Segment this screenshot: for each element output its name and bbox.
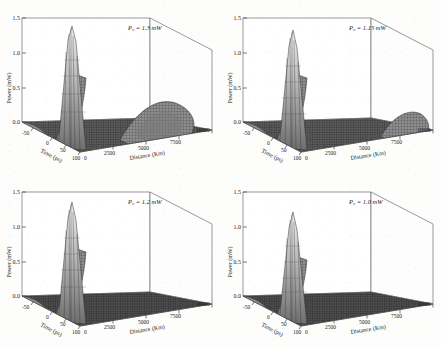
svg-text:0.0: 0.0: [234, 119, 242, 125]
panel-bottom-left: 1.5 1.0 0.5 0.0 Power (mW): [0, 174, 220, 347]
svg-text:100: 100: [72, 155, 81, 161]
svg-text:0.5: 0.5: [13, 259, 21, 265]
svg-text:1.0: 1.0: [234, 50, 242, 56]
panel-top-left: 1.5 1.0 0.5 0.0 Power (mW): [0, 0, 220, 173]
svg-text:0: 0: [267, 140, 270, 146]
y-axis-label: Distance (Km): [129, 324, 165, 336]
svg-text:7500: 7500: [170, 139, 181, 145]
z-axis-label: Power (mW): [6, 72, 13, 103]
svg-text:100: 100: [293, 155, 302, 161]
svg-text:10000: 10000: [417, 127, 431, 133]
svg-text:0: 0: [84, 329, 87, 335]
svg-text:2500: 2500: [325, 324, 336, 330]
y-axis-label: Distance (Km): [129, 150, 165, 162]
svg-text:0.5: 0.5: [13, 85, 21, 91]
svg-text:0: 0: [84, 155, 87, 161]
svg-text:2500: 2500: [104, 150, 115, 156]
z-axis-label: Power (mW): [6, 246, 13, 277]
panel-annotation: P₀ = 1.0 mW: [348, 198, 383, 205]
svg-text:1.5: 1.5: [13, 189, 21, 195]
svg-text:10000: 10000: [196, 301, 210, 307]
svg-text:10000: 10000: [196, 127, 210, 133]
svg-text:7500: 7500: [391, 139, 402, 145]
svg-text:2500: 2500: [104, 324, 115, 330]
panel-annotation: P₀ = 1.2 mW: [127, 198, 162, 205]
svg-text:-50: -50: [22, 130, 30, 136]
svg-text:50: 50: [60, 147, 66, 153]
panel-bottom-right-plot: 1.5 1.0 0.5 0.0 Power (mW): [221, 174, 441, 347]
svg-text:-50: -50: [243, 304, 251, 310]
panel-top-right-plot: 1.5 1.0 0.5 0.0 Power (mW): [221, 0, 441, 173]
svg-text:0.0: 0.0: [13, 293, 21, 299]
svg-text:1.0: 1.0: [13, 50, 21, 56]
panel-bottom-left-plot: 1.5 1.0 0.5 0.0 Power (mW): [0, 174, 220, 347]
y-axis-label: Distance (Km): [350, 324, 386, 336]
svg-text:10000: 10000: [417, 301, 431, 307]
z-tick-labels: 1.5 1.0 0.5 0.0: [13, 15, 21, 125]
svg-text:-50: -50: [22, 304, 30, 310]
figure-four-panel-surface-plots: 1.5 1.0 0.5 0.0 Power (mW): [0, 0, 441, 347]
svg-text:0.0: 0.0: [13, 119, 21, 125]
svg-text:0.0: 0.0: [234, 293, 242, 299]
svg-text:0: 0: [305, 329, 308, 335]
svg-text:1.5: 1.5: [13, 15, 21, 21]
svg-text:7500: 7500: [170, 313, 181, 319]
svg-text:1.0: 1.0: [234, 224, 242, 230]
svg-text:5000: 5000: [359, 319, 370, 325]
svg-text:0: 0: [46, 140, 49, 146]
z-axis-label: Power (mW): [227, 72, 234, 103]
svg-text:50: 50: [281, 147, 287, 153]
svg-text:50: 50: [281, 321, 287, 327]
svg-text:7500: 7500: [391, 313, 402, 319]
svg-text:50: 50: [60, 321, 66, 327]
z-axis-label: Power (mW): [227, 246, 234, 277]
panel-annotation: P₀ = 1.3 mW: [127, 24, 162, 31]
svg-text:0.5: 0.5: [234, 85, 242, 91]
svg-text:-50: -50: [243, 130, 251, 136]
svg-text:0: 0: [267, 314, 270, 320]
svg-text:5000: 5000: [138, 145, 149, 151]
panel-top-right: 1.5 1.0 0.5 0.0 Power (mW): [221, 0, 441, 173]
panel-annotation: P₀ = 1.15 mW: [348, 24, 387, 31]
svg-text:5000: 5000: [138, 319, 149, 325]
svg-text:0: 0: [305, 155, 308, 161]
y-axis-label: Distance (Km): [350, 150, 386, 162]
svg-text:1.0: 1.0: [13, 224, 21, 230]
svg-text:1.5: 1.5: [234, 15, 242, 21]
svg-text:2500: 2500: [325, 150, 336, 156]
svg-text:100: 100: [293, 329, 302, 335]
panel-bottom-right: 1.5 1.0 0.5 0.0 Power (mW): [221, 174, 441, 347]
svg-text:0: 0: [46, 314, 49, 320]
svg-text:5000: 5000: [359, 145, 370, 151]
svg-text:1.5: 1.5: [234, 189, 242, 195]
z-tick-labels: 1.5 1.0 0.5 0.0: [13, 189, 21, 299]
z-tick-labels: 1.5 1.0 0.5 0.0: [234, 189, 242, 299]
svg-text:0.5: 0.5: [234, 259, 242, 265]
svg-text:100: 100: [72, 329, 81, 335]
panel-top-left-plot: 1.5 1.0 0.5 0.0 Power (mW): [0, 0, 220, 173]
z-tick-labels: 1.5 1.0 0.5 0.0: [234, 15, 242, 125]
